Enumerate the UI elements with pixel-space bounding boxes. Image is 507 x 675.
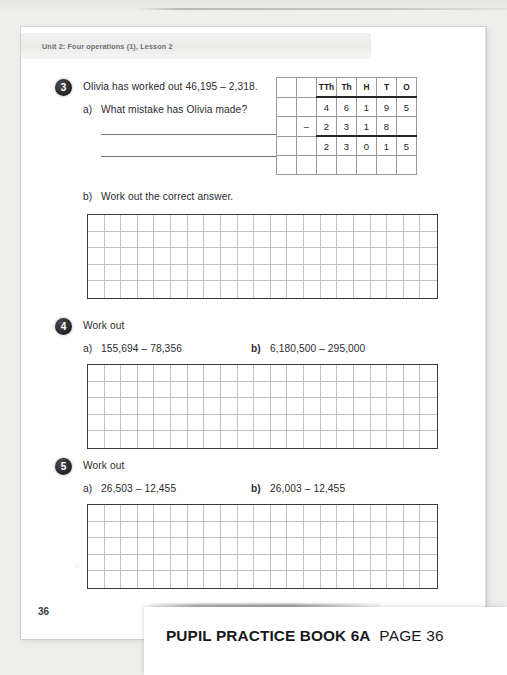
work-grid-cell[interactable] — [420, 431, 437, 448]
work-grid-cell[interactable] — [387, 522, 404, 539]
work-grid-cell[interactable] — [321, 415, 338, 432]
work-grid-cell[interactable] — [171, 232, 188, 249]
work-grid-cell[interactable] — [304, 398, 321, 415]
work-grid-cell[interactable] — [354, 415, 371, 432]
work-grid-cell[interactable] — [337, 431, 354, 448]
work-grid-cell[interactable] — [105, 265, 122, 282]
work-grid-cell[interactable] — [404, 431, 421, 448]
work-grid-cell[interactable] — [337, 522, 354, 539]
work-grid-cell[interactable] — [105, 555, 122, 572]
work-grid-cell[interactable] — [404, 248, 421, 265]
work-grid-cell[interactable] — [354, 365, 371, 382]
work-grid-cell[interactable] — [287, 232, 304, 249]
work-grid-cell[interactable] — [238, 571, 255, 588]
work-grid-cell[interactable] — [171, 505, 188, 522]
work-grid-cell[interactable] — [304, 281, 321, 298]
work-grid-cell[interactable] — [154, 232, 171, 249]
work-grid-cell[interactable] — [171, 522, 188, 539]
work-grid-cell[interactable] — [105, 382, 122, 399]
work-grid-cell[interactable] — [387, 232, 404, 249]
work-grid-cell[interactable] — [271, 522, 288, 539]
work-grid-cell[interactable] — [105, 365, 122, 382]
work-grid-cell[interactable] — [354, 232, 371, 249]
work-grid-cell[interactable] — [304, 232, 321, 249]
work-grid-cell[interactable] — [287, 215, 304, 232]
work-grid-cell[interactable] — [371, 232, 388, 249]
work-grid-cell[interactable] — [154, 382, 171, 399]
work-grid-cell[interactable] — [238, 265, 255, 282]
work-grid-cell[interactable] — [271, 398, 288, 415]
work-grid-cell[interactable] — [171, 265, 188, 282]
work-grid-cell[interactable] — [254, 555, 271, 572]
work-grid-cell[interactable] — [387, 265, 404, 282]
work-grid-cell[interactable] — [287, 538, 304, 555]
work-grid-cell[interactable] — [321, 555, 338, 572]
work-grid-cell[interactable] — [254, 232, 271, 249]
work-grid-cell[interactable] — [271, 382, 288, 399]
work-grid-cell[interactable] — [254, 365, 271, 382]
work-grid-cell[interactable] — [105, 232, 122, 249]
work-grid-cell[interactable] — [88, 522, 105, 539]
work-grid-cell[interactable] — [204, 415, 221, 432]
work-grid-cell[interactable] — [271, 505, 288, 522]
work-grid-cell[interactable] — [387, 431, 404, 448]
work-grid-cell[interactable] — [420, 505, 437, 522]
work-grid-cell[interactable] — [188, 522, 205, 539]
work-grid-cell[interactable] — [287, 555, 304, 572]
work-grid-cell[interactable] — [105, 281, 122, 298]
work-grid-cell[interactable] — [121, 232, 138, 249]
work-grid-cell[interactable] — [271, 215, 288, 232]
work-grid-cell[interactable] — [287, 415, 304, 432]
work-grid-cell[interactable] — [354, 281, 371, 298]
work-grid-cell[interactable] — [105, 415, 122, 432]
work-grid-cell[interactable] — [354, 382, 371, 399]
work-grid-cell[interactable] — [154, 415, 171, 432]
work-grid-cell[interactable] — [387, 571, 404, 588]
work-grid-cell[interactable] — [238, 505, 255, 522]
work-grid-cell[interactable] — [337, 281, 354, 298]
work-grid-cell[interactable] — [271, 431, 288, 448]
work-grid-cell[interactable] — [354, 265, 371, 282]
work-grid-cell[interactable] — [321, 265, 338, 282]
work-grid-cell[interactable] — [321, 571, 338, 588]
work-grid-cell[interactable] — [188, 571, 205, 588]
work-grid-cell[interactable] — [154, 398, 171, 415]
work-grid-cell[interactable] — [171, 215, 188, 232]
work-grid-cell[interactable] — [254, 505, 271, 522]
work-grid-cell[interactable] — [171, 398, 188, 415]
work-grid-cell[interactable] — [121, 415, 138, 432]
work-grid-cell[interactable] — [337, 365, 354, 382]
work-grid-cell[interactable] — [105, 431, 122, 448]
work-grid-cell[interactable] — [287, 505, 304, 522]
work-grid-cell[interactable] — [304, 505, 321, 522]
work-grid-cell[interactable] — [204, 522, 221, 539]
work-grid-cell[interactable] — [337, 265, 354, 282]
work-grid-cell[interactable] — [105, 505, 122, 522]
work-grid-cell[interactable] — [304, 522, 321, 539]
work-grid-cell[interactable] — [204, 248, 221, 265]
work-grid-cell[interactable] — [254, 382, 271, 399]
work-grid-cell[interactable] — [271, 538, 288, 555]
work-grid-cell[interactable] — [271, 571, 288, 588]
work-grid-cell[interactable] — [121, 522, 138, 539]
work-grid-cell[interactable] — [88, 431, 105, 448]
work-grid-cell[interactable] — [271, 415, 288, 432]
work-grid-cell[interactable] — [88, 415, 105, 432]
work-grid-cell[interactable] — [287, 431, 304, 448]
work-grid-cell[interactable] — [188, 505, 205, 522]
work-grid-cell[interactable] — [221, 382, 238, 399]
work-grid-cell[interactable] — [420, 522, 437, 539]
work-grid-cell[interactable] — [271, 265, 288, 282]
work-grid-cell[interactable] — [354, 522, 371, 539]
work-grid-cell[interactable] — [371, 505, 388, 522]
work-grid-cell[interactable] — [88, 398, 105, 415]
work-grid-cell[interactable] — [154, 281, 171, 298]
work-grid-cell[interactable] — [287, 522, 304, 539]
work-grid-cell[interactable] — [371, 281, 388, 298]
work-grid-cell[interactable] — [204, 281, 221, 298]
work-grid-cell[interactable] — [371, 265, 388, 282]
work-grid-cell[interactable] — [171, 248, 188, 265]
work-grid-cell[interactable] — [404, 281, 421, 298]
work-grid-cell[interactable] — [138, 571, 155, 588]
work-grid-cell[interactable] — [204, 538, 221, 555]
